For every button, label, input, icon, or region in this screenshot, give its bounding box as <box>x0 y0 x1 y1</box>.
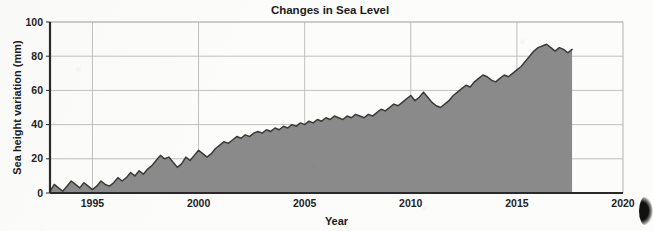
chart-title: Changes in Sea Level <box>271 4 389 16</box>
y-axis-label: Sea height variation (mm) <box>11 40 23 175</box>
y-tick-label: 20 <box>31 152 43 164</box>
x-tick-label: 2000 <box>187 197 211 209</box>
scan-edge-artifact <box>639 196 653 226</box>
y-tick-label: 100 <box>25 16 43 28</box>
x-tick-label: 2015 <box>505 197 529 209</box>
y-tick-label: 40 <box>31 118 43 130</box>
x-axis-label: Year <box>325 215 349 227</box>
x-tick-label: 2010 <box>399 197 423 209</box>
y-tick-label: 60 <box>31 84 43 96</box>
chart-svg: Changes in Sea Level 020406080100 199520… <box>0 0 653 231</box>
x-tick-label: 2020 <box>611 197 635 209</box>
x-tick-label: 2005 <box>293 197 317 209</box>
y-tick-label: 80 <box>31 50 43 62</box>
x-tick-label: 1995 <box>81 197 105 209</box>
y-tick-label: 0 <box>37 187 43 199</box>
sea-level-chart-figure: Changes in Sea Level 020406080100 199520… <box>0 0 653 231</box>
